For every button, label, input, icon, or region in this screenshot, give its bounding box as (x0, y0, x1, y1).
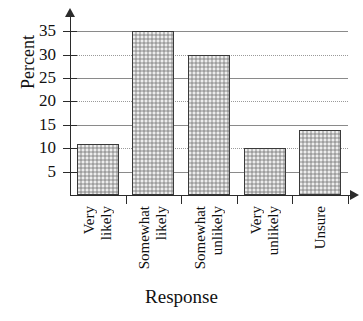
bar-chart: Percent 5101520253035 VerylikelySomewhat… (0, 0, 363, 321)
x-axis-label-word: Unsure (312, 206, 329, 249)
x-axis-label: Unsure (297, 206, 343, 282)
y-axis-tick-label: 10 (22, 139, 56, 156)
x-axis-label-word: unlikely (209, 206, 226, 255)
x-axis-label-word: Very (81, 206, 98, 234)
y-axis-tick-label: 30 (22, 46, 56, 63)
x-axis-label: Somewhatunlikely (186, 206, 232, 282)
y-axis-tick (63, 148, 77, 149)
x-axis-label: Verylikely (75, 206, 121, 282)
bar (77, 144, 119, 195)
x-axis-tick (126, 195, 127, 204)
y-axis-tick (63, 172, 77, 173)
bar (244, 148, 286, 195)
y-axis-tick (63, 78, 77, 79)
gridline (70, 31, 348, 32)
x-axis-label-word: Very (248, 206, 265, 234)
y-axis-tick-label: 20 (22, 92, 56, 109)
x-axis-label-word: unlikely (265, 206, 282, 255)
plot-area: 5101520253035 (70, 22, 348, 195)
x-axis-label: Veryunlikely (242, 206, 288, 282)
x-axis-tick (348, 195, 349, 204)
x-axis-label-word: Somewhat (192, 206, 209, 269)
y-axis-tick (63, 101, 77, 102)
y-axis-arrow-icon (65, 8, 75, 17)
x-axis-tick (181, 195, 182, 204)
bar (132, 31, 174, 195)
x-axis-arrow-icon (350, 190, 359, 200)
y-axis-tick (63, 125, 77, 126)
x-axis-tick (237, 195, 238, 204)
x-axis-title: Response (0, 286, 363, 308)
x-axis-label-word: likely (98, 206, 115, 240)
x-axis-line (70, 195, 352, 196)
bar (188, 55, 230, 195)
x-axis-label-word: likely (153, 206, 170, 240)
y-axis-tick-label: 35 (22, 22, 56, 39)
y-axis-tick (63, 55, 77, 56)
y-axis-tick-label: 15 (22, 116, 56, 133)
y-axis-tick (63, 31, 77, 32)
x-axis-label-word: Somewhat (136, 206, 153, 269)
x-axis-tick (292, 195, 293, 204)
y-axis-tick-label: 5 (22, 163, 56, 180)
x-axis-label: Somewhatlikely (130, 206, 176, 282)
bar (299, 130, 341, 195)
y-axis-tick-label: 25 (22, 69, 56, 86)
